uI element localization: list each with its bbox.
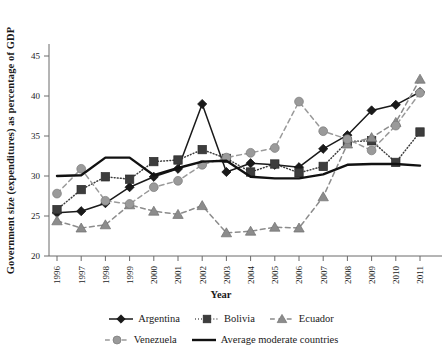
- legend-item-venezuela[interactable]: Venezuela: [104, 333, 177, 347]
- data-point: [101, 196, 110, 205]
- data-point: [295, 169, 303, 177]
- data-point: [77, 207, 86, 216]
- y-tick-label: 35: [31, 131, 41, 141]
- legend-item-argentina[interactable]: Argentina: [108, 312, 180, 326]
- x-tick-label: 2011: [415, 266, 425, 284]
- legend-item-average-moderate-countries[interactable]: Average moderate countries: [191, 333, 339, 347]
- data-point: [318, 192, 328, 201]
- x-tick-label: 2008: [343, 266, 353, 285]
- chart-plot-area: 1996199719981999200020012002200320042005…: [0, 0, 442, 300]
- legend-marker-square-icon: [194, 312, 220, 326]
- x-tick-label: 2009: [367, 266, 377, 285]
- y-tick-label: 20: [31, 251, 41, 261]
- data-point: [174, 156, 182, 164]
- data-point: [174, 176, 183, 185]
- series-line: [57, 93, 420, 204]
- legend-label: Argentina: [138, 313, 180, 324]
- data-point: [53, 189, 62, 198]
- data-point: [416, 128, 424, 136]
- series-venezuela: [53, 88, 425, 208]
- series-line: [57, 79, 420, 233]
- data-point: [125, 200, 134, 209]
- legend-row-secondary: VenezuelaAverage moderate countries: [0, 329, 442, 350]
- data-point: [198, 99, 207, 108]
- chart-figure: Government size (expenditures) as percen…: [0, 0, 442, 360]
- x-tick-label: 1998: [101, 266, 111, 285]
- data-point: [77, 185, 85, 193]
- data-point: [391, 121, 400, 130]
- legend-row-primary: ArgentinaBoliviaEcuador: [0, 308, 442, 329]
- y-axis-ticks: 202530354045: [31, 51, 49, 261]
- x-tick-label: 1997: [77, 266, 87, 285]
- data-point: [343, 135, 352, 144]
- series-average-moderate-countries: [57, 158, 420, 179]
- data-point: [101, 173, 109, 181]
- x-tick-label: 1999: [125, 266, 135, 285]
- data-point: [246, 148, 255, 157]
- data-point: [150, 157, 158, 165]
- x-axis-title: Year: [0, 289, 442, 300]
- data-point: [295, 97, 304, 106]
- y-tick-label: 30: [31, 171, 41, 181]
- y-tick-label: 40: [31, 91, 41, 101]
- data-point: [319, 162, 327, 170]
- data-series-group: [52, 74, 425, 237]
- data-point: [198, 145, 206, 153]
- data-point: [52, 216, 62, 225]
- x-axis-ticks: 1996199719981999200020012002200320042005…: [52, 256, 425, 284]
- y-tick-label: 45: [31, 51, 41, 61]
- legend-marker-diamond-icon: [108, 312, 134, 326]
- legend-label: Average moderate countries: [221, 334, 339, 345]
- x-tick-label: 2004: [246, 266, 256, 285]
- legend-marker-line-icon: [191, 333, 217, 347]
- x-tick-label: 2010: [391, 266, 401, 285]
- data-point: [416, 88, 425, 97]
- x-tick-label: 2006: [294, 266, 304, 285]
- x-tick-label: 1996: [52, 266, 62, 285]
- data-point: [367, 146, 376, 155]
- series-line: [57, 92, 420, 213]
- legend-item-bolivia[interactable]: Bolivia: [194, 312, 255, 326]
- x-tick-label: 2002: [198, 266, 208, 284]
- data-point: [270, 144, 279, 153]
- y-tick-label: 25: [31, 211, 41, 221]
- data-point: [125, 183, 134, 192]
- x-axis-title-text: Year: [211, 289, 232, 300]
- x-tick-label: 2005: [270, 266, 280, 285]
- data-point: [197, 201, 207, 210]
- legend-item-ecuador[interactable]: Ecuador: [269, 312, 334, 326]
- legend-marker-circle-icon: [104, 333, 130, 347]
- data-point: [149, 183, 158, 192]
- series-line: [57, 158, 420, 179]
- legend-marker-triangle-icon: [269, 312, 295, 326]
- data-point: [319, 127, 328, 136]
- data-point: [222, 167, 231, 176]
- data-point: [125, 175, 133, 183]
- series-line: [57, 132, 420, 210]
- data-point: [391, 100, 400, 109]
- x-tick-label: 2001: [173, 266, 183, 284]
- legend-label: Ecuador: [299, 313, 334, 324]
- legend-label: Venezuela: [134, 334, 177, 345]
- data-point: [271, 160, 279, 168]
- x-tick-label: 2000: [149, 266, 159, 285]
- data-point: [246, 159, 255, 168]
- data-point: [53, 205, 61, 213]
- x-tick-label: 2007: [319, 266, 329, 285]
- x-tick-label: 2003: [222, 266, 232, 285]
- chart-legend: ArgentinaBoliviaEcuador VenezuelaAverage…: [0, 308, 442, 350]
- legend-label: Bolivia: [224, 313, 255, 324]
- data-point: [415, 74, 425, 83]
